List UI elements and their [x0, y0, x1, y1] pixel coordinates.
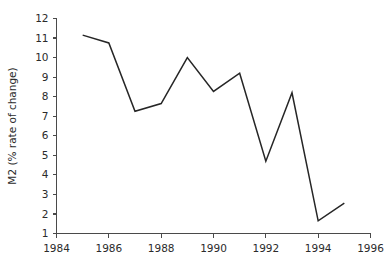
y-tick-label: 2: [42, 208, 49, 220]
axis-tick-marks: [53, 19, 371, 238]
y-tick-label: 12: [35, 12, 48, 24]
y-tick-label: 8: [42, 90, 49, 102]
y-tick-label: 10: [35, 51, 48, 63]
data-series-line: [83, 35, 345, 221]
y-tick-label: 1: [42, 227, 49, 239]
x-tick-label: 1990: [200, 242, 227, 254]
y-tick-label: 4: [42, 168, 49, 180]
y-axis-title: M2 (% rate of change): [6, 67, 18, 184]
y-tick-label: 6: [42, 129, 49, 141]
x-tick-label: 1992: [252, 242, 279, 254]
x-tick-label: 1986: [95, 242, 122, 254]
y-tick-label: 9: [42, 71, 49, 83]
x-axis-tick-labels: 1984198619881990199219941996: [43, 242, 384, 254]
x-tick-label: 1988: [148, 242, 175, 254]
y-tick-label: 3: [42, 188, 49, 200]
line-chart: M2 (% rate of change) 123456789101112 19…: [0, 0, 391, 265]
x-tick-label: 1994: [305, 242, 332, 254]
y-tick-label: 5: [42, 149, 49, 161]
y-axis-tick-labels: 123456789101112: [35, 12, 49, 239]
y-tick-label: 11: [35, 32, 48, 44]
y-axis-title-label: M2 (% rate of change): [6, 67, 18, 184]
chart-container: M2 (% rate of change) 123456789101112 19…: [0, 0, 391, 265]
x-tick-label: 1996: [357, 242, 384, 254]
y-tick-label: 7: [42, 110, 49, 122]
x-tick-label: 1984: [43, 242, 70, 254]
